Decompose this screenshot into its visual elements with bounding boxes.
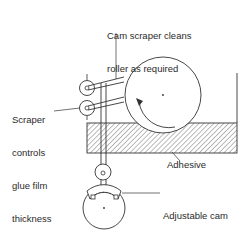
label-line: glue film <box>12 180 52 191</box>
label-cam-scraper: Cam scraper cleans roller as required <box>107 8 191 85</box>
film-scraper <box>80 97 125 120</box>
label-line: thickness <box>12 213 52 224</box>
label-line: controls <box>12 147 52 158</box>
cam-follower <box>95 164 111 180</box>
label-line: Adjustable cam <box>163 210 228 221</box>
label-scraper-controls: Scraper controls glue film thickness <box>12 92 52 235</box>
label-line: Scraper <box>12 114 52 125</box>
adjustable-cam <box>83 185 125 229</box>
label-adjustable-cam: Adjustable cam control <box>163 188 228 238</box>
label-line: Cam scraper cleans <box>107 30 191 41</box>
label-adhesive: Adhesive <box>167 159 206 170</box>
label-line: roller as required <box>107 63 191 74</box>
